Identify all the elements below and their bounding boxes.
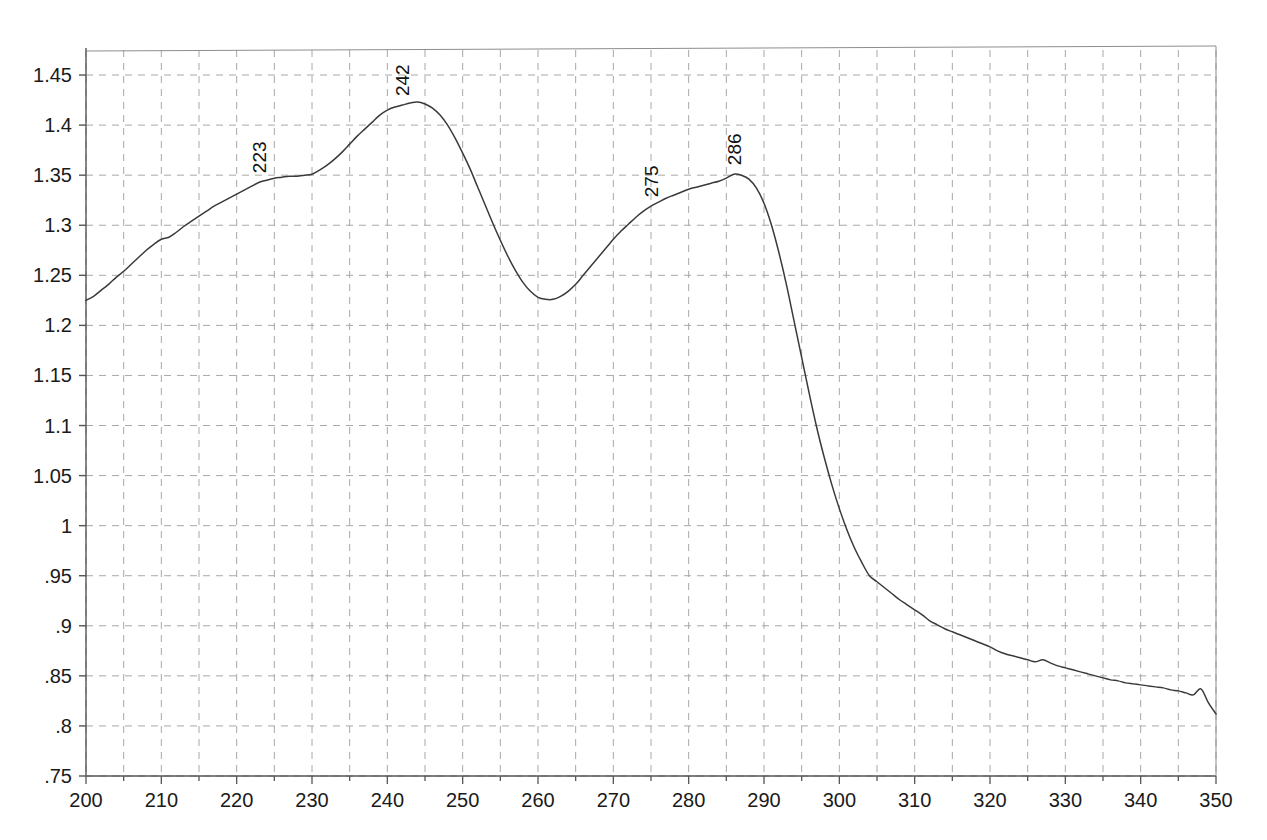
x-axis-tick-label: 220 (220, 789, 253, 811)
x-axis-tick-label: 210 (145, 789, 178, 811)
peak-annotation-label: 286 (724, 133, 745, 165)
x-axis-tick-label: 250 (446, 789, 479, 811)
x-axis-tick-label: 300 (823, 789, 856, 811)
y-axis-tick-label: .75 (44, 765, 72, 787)
x-axis-tick-label: 310 (898, 789, 931, 811)
chart-background (0, 0, 1267, 840)
y-axis-tick-label: 1.3 (44, 214, 72, 236)
y-axis-tick-label: 1.35 (33, 164, 72, 186)
y-axis-tick-label: .95 (44, 565, 72, 587)
y-axis-tick-label: 1.1 (44, 415, 72, 437)
x-axis-tick-label: 270 (597, 789, 630, 811)
x-axis-tick-label: 340 (1124, 789, 1157, 811)
y-axis-tick-label: .8 (55, 715, 72, 737)
peak-annotation-label: 275 (641, 166, 662, 198)
spectrum-chart: 2002102202302402502602702802903003103203… (0, 0, 1267, 840)
y-axis-tick-label: 1 (61, 515, 72, 537)
x-axis-tick-label: 230 (295, 789, 328, 811)
x-axis-tick-label: 320 (973, 789, 1006, 811)
y-axis-tick-label: 1.25 (33, 264, 72, 286)
peak-annotation-label: 242 (392, 64, 413, 96)
x-axis-tick-label: 240 (371, 789, 404, 811)
y-axis-tick-label: 1.15 (33, 364, 72, 386)
y-axis-tick-label: .85 (44, 665, 72, 687)
y-axis-tick-label: 1.2 (44, 314, 72, 336)
x-axis-tick-label: 290 (747, 789, 780, 811)
x-axis-tick-label: 330 (1049, 789, 1082, 811)
x-axis-tick-label: 200 (69, 789, 102, 811)
y-axis-tick-label: 1.4 (44, 114, 72, 136)
y-axis-tick-label: 1.45 (33, 64, 72, 86)
y-axis-tick-label: 1.05 (33, 465, 72, 487)
peak-annotation-label: 223 (249, 141, 270, 173)
chart-canvas: 2002102202302402502602702802903003103203… (0, 0, 1267, 840)
x-axis-tick-label: 280 (672, 789, 705, 811)
y-axis-tick-label: .9 (55, 615, 72, 637)
x-axis-tick-label: 260 (521, 789, 554, 811)
x-axis-tick-label: 350 (1199, 789, 1232, 811)
